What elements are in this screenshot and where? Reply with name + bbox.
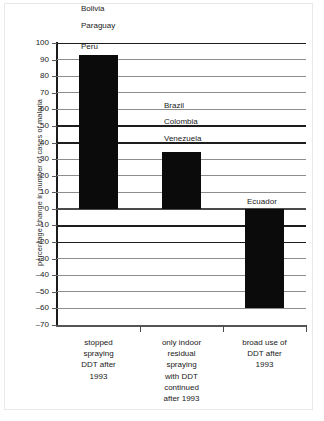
figure-malaria-ddt-bar-chart: percentage change in number of cases of … bbox=[0, 0, 324, 421]
country-annotation: Peru bbox=[81, 43, 98, 51]
x-axis-category-label-line: stopped bbox=[57, 337, 140, 348]
x-axis-category-label-line: broad use of bbox=[223, 337, 306, 348]
figure-border-left bbox=[4, 3, 5, 409]
y-axis-tick bbox=[52, 209, 57, 210]
y-axis-tick-label: 100 bbox=[36, 39, 49, 47]
y-axis-tick bbox=[52, 308, 57, 309]
x-axis-category-label-line: continued bbox=[140, 382, 223, 393]
y-axis-tick-label: –10 bbox=[36, 221, 49, 229]
x-axis-category-label-line: residual bbox=[140, 348, 223, 359]
y-axis-tick bbox=[52, 242, 57, 243]
x-axis-category-label-line: 1993 bbox=[223, 359, 306, 370]
y-axis-tick-label: 0 bbox=[45, 205, 49, 213]
y-axis-tick bbox=[52, 275, 57, 276]
country-annotation: Brazil bbox=[164, 102, 184, 110]
x-axis-category-label-line: spraying bbox=[140, 359, 223, 370]
y-axis-tick bbox=[52, 225, 57, 226]
y-axis-tick-label: 80 bbox=[40, 72, 49, 80]
x-axis-category-label-line: DDT after bbox=[223, 348, 306, 359]
y-axis-tick bbox=[52, 126, 57, 127]
y-axis-tick bbox=[52, 76, 57, 77]
y-axis-tick-label: 40 bbox=[40, 139, 49, 147]
y-axis-tick-label: 30 bbox=[40, 155, 49, 163]
x-axis-category-label-line: 1993 bbox=[57, 371, 140, 382]
x-axis-tick bbox=[306, 325, 307, 332]
y-axis-tick-label: 70 bbox=[40, 89, 49, 97]
y-axis-tick-label: –20 bbox=[36, 238, 49, 246]
country-annotation: Paraguay bbox=[81, 22, 115, 30]
figure-border-right bbox=[312, 3, 313, 409]
y-axis-tick bbox=[52, 192, 57, 193]
y-axis-tick-label: 90 bbox=[40, 56, 49, 64]
y-axis-tick bbox=[52, 143, 57, 144]
country-annotation: Ecuador bbox=[247, 198, 277, 206]
x-axis-category-label: broad use ofDDT after1993 bbox=[223, 337, 306, 371]
x-axis-category-label-line: DDT after bbox=[57, 359, 140, 370]
x-axis-line bbox=[56, 325, 306, 326]
y-axis-tick-label: –40 bbox=[36, 271, 49, 279]
bar bbox=[245, 209, 284, 309]
y-axis-tick-label: 10 bbox=[40, 188, 49, 196]
y-axis-tick-label: –50 bbox=[36, 288, 49, 296]
bar bbox=[162, 152, 201, 208]
x-axis-category-label: only indoorresidualsprayingwith DDTconti… bbox=[140, 337, 223, 404]
x-axis-category-label-line: with DDT bbox=[140, 371, 223, 382]
x-axis-category-label-line: only indoor bbox=[140, 337, 223, 348]
x-axis-tick bbox=[223, 325, 224, 332]
plot-area: 1009080706050403020100–10–20–30–40–50–60… bbox=[57, 43, 306, 325]
figure-border-bottom bbox=[4, 409, 313, 410]
y-axis-tick bbox=[52, 60, 57, 61]
y-axis-tick bbox=[52, 176, 57, 177]
y-axis-tick bbox=[52, 259, 57, 260]
x-axis-tick bbox=[140, 325, 141, 332]
y-axis-tick bbox=[52, 109, 57, 110]
y-axis-tick-label: 60 bbox=[40, 105, 49, 113]
y-axis-tick bbox=[52, 292, 57, 293]
figure-border-top bbox=[4, 3, 313, 4]
country-annotation: Bolivia bbox=[81, 5, 105, 13]
y-axis-tick bbox=[52, 43, 57, 44]
y-axis-tick bbox=[52, 159, 57, 160]
y-axis-tick-label: –70 bbox=[36, 321, 49, 329]
y-axis-tick-label: 50 bbox=[40, 122, 49, 130]
y-axis-tick bbox=[52, 93, 57, 94]
x-axis-category-label-line: after 1993 bbox=[140, 393, 223, 404]
country-annotation: Colombia bbox=[164, 118, 198, 126]
y-axis-tick-label: –60 bbox=[36, 304, 49, 312]
x-axis-category-label-line: spraying bbox=[57, 348, 140, 359]
bar bbox=[79, 55, 118, 209]
y-axis-tick-label: –30 bbox=[36, 255, 49, 263]
country-annotation: Venezuela bbox=[164, 135, 201, 143]
x-axis-category-label: stoppedsprayingDDT after1993 bbox=[57, 337, 140, 382]
y-axis-tick-label: 20 bbox=[40, 172, 49, 180]
